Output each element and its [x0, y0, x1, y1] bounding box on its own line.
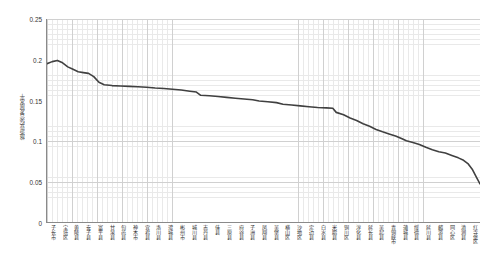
y-axis-tick: 0.2: [33, 56, 42, 63]
x-axis-tick: 蒲城县: [400, 225, 407, 239]
x-axis-tick: 城川县: [189, 225, 196, 239]
x-axis-tick: 宝塔区: [60, 225, 67, 239]
x-axis-tick: 洛川县: [154, 225, 161, 239]
x-axis-tick: 子洲县: [248, 225, 255, 239]
x-axis-tick: 青铜峡市: [389, 225, 396, 244]
x-axis-tick: 吴堡县: [271, 225, 278, 239]
x-axis-tick: 延川县: [424, 225, 431, 239]
x-axis-tick: 澄城县: [166, 225, 173, 239]
x-axis-tick: 宜君县: [142, 225, 149, 239]
x-axis-tick: 白水县: [318, 225, 325, 239]
x-axis-tick: 彬州市: [177, 225, 184, 239]
x-axis-tick: 延长县: [365, 225, 372, 239]
plot-area: [46, 19, 480, 223]
x-axis-tick: 安子县: [84, 225, 91, 239]
x-axis-tick: 黄陵县: [72, 225, 79, 239]
y-axis-tick: 0.25: [30, 16, 42, 23]
x-axis-tick: 红寺堡区: [471, 225, 478, 244]
x-axis-tick: 清涧县: [459, 225, 466, 239]
y-axis-tick: 0.1: [33, 138, 42, 145]
x-axis-tick: 铜川区: [342, 225, 349, 239]
series-path: [47, 60, 480, 183]
x-axis-tick: 旬邑县: [119, 225, 126, 239]
x-axis-tick: 志丹县: [201, 225, 208, 239]
x-axis-tick: 沙地区: [295, 225, 302, 239]
x-axis-tick: 麟游县: [435, 225, 442, 239]
x-axis-tick: 凤翔县: [260, 225, 267, 239]
x-axis-tick: 佳县: [213, 225, 220, 235]
x-axis-tick: 吴起县: [377, 225, 384, 239]
x-axis-tick: 神木市: [130, 225, 137, 239]
x-axis-tick: 富平县: [95, 225, 102, 239]
y-axis-tick: 0: [38, 220, 42, 227]
chart-container: 旅游业综合发展水平 00.050.10.150.20.25 子长市宝塔区黄陵县安…: [0, 0, 497, 274]
x-axis-tick: 子长市: [48, 225, 55, 239]
x-axis-tick: 米脂县: [330, 225, 337, 239]
x-axis-tick: 定边县: [306, 225, 313, 239]
y-axis-tick-labels: 00.050.10.150.20.25: [22, 19, 44, 223]
x-axis-tick: 淳化县: [353, 225, 360, 239]
x-axis-tick: 横山区: [283, 225, 290, 239]
y-axis-tick: 0.05: [30, 179, 42, 186]
line-series: [47, 19, 480, 222]
x-axis-tick: 府谷县: [236, 225, 243, 239]
x-axis-tick: 甘泉县: [107, 225, 114, 239]
x-axis-tick: 同心区: [447, 225, 454, 239]
x-axis-tick-labels: 子长市宝塔区黄陵县安子县富平县甘泉县旬邑县神木市宜君县洛川县澄城县彬州市城川县志…: [46, 225, 480, 274]
x-axis-tick: 三原县: [224, 225, 231, 239]
y-axis-tick: 0.15: [30, 97, 42, 104]
x-axis-tick: 绥德县: [412, 225, 419, 239]
